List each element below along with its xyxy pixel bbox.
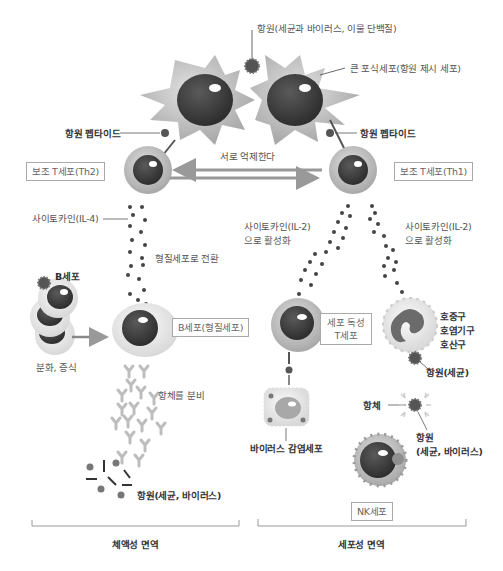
- granulocyte-neutrophil-label: 호중구: [440, 310, 466, 323]
- cytokine-il2-right-label-2: 으로 활성화: [405, 234, 451, 247]
- antigen-bottom-left-label: 항원(세균, 바이러스): [137, 489, 221, 502]
- granulocyte-basophil-label: 호염기구: [440, 324, 475, 337]
- cytotoxic-t-cell-icon: [271, 298, 325, 385]
- cytokine-il4-label: 사이토카인(IL-4): [32, 212, 99, 225]
- antibody-antigen-right-icon: [388, 393, 431, 430]
- plasma-cell-icon: [112, 303, 178, 357]
- cytokine-dots-left-icon: [126, 205, 148, 306]
- peptide-left-label: 항원 펩타이드: [65, 127, 120, 140]
- diagram-artwork: [0, 0, 503, 571]
- humoral-immunity-label: 체액성 면역: [112, 538, 159, 551]
- humoral-bracket: [32, 520, 239, 526]
- differentiation-label: 분화, 증식: [36, 361, 76, 374]
- immune-system-diagram: 항원(세균과 바이러스, 이물 단백질) 큰 포식세포(항원 제시 세포) 항원…: [0, 0, 503, 571]
- cytokine-dots-middle-icon: [297, 204, 352, 296]
- b-cell-label: B세포: [55, 270, 79, 283]
- antibody-label: 항체: [363, 399, 380, 412]
- th1-cell-icon: [329, 146, 377, 194]
- b-cell-stack-icon: [30, 277, 78, 355]
- macrophage-label: 큰 포식세포(항원 제시 세포): [350, 62, 461, 75]
- cytokine-il2-right-label-1: 사이토카인(IL-2): [405, 220, 472, 233]
- plasma-conversion-label: 형질세포로 전환: [155, 252, 219, 265]
- cytokine-dots-right-icon: [368, 204, 404, 294]
- b-cell-plasma-box: B세포(형질세포): [172, 318, 249, 337]
- granulocyte-eosinophil-label: 호산구: [440, 338, 466, 351]
- antigen-top-label: 항원(세균과 바이러스, 이물 단백질): [257, 22, 397, 35]
- antibody-secretion-label: 항체를 분비: [158, 389, 204, 402]
- cytotoxic-t-line-1: 세포 독성: [326, 316, 366, 329]
- virus-infected-cell-label: 바이러스 감염세포: [250, 442, 323, 455]
- granulocyte-icon: [383, 298, 437, 374]
- cytokine-il2-mid-label-2: 으로 활성화: [244, 234, 290, 247]
- cytokine-il2-mid-label-1: 사이토카인(IL-2): [244, 220, 311, 233]
- antigen-bacteria-label: 항원(세균): [426, 366, 469, 379]
- antigen-right-label-2: (세균, 바이러스): [416, 445, 483, 458]
- antibody-cluster-icon: [112, 366, 165, 466]
- antigen-right-label-1: 항원: [416, 431, 433, 444]
- peptide-right-label: 항원 펩타이드: [360, 127, 415, 140]
- cytotoxic-t-line-2: T세포: [326, 329, 366, 342]
- cytotoxic-t-cell-box: 세포 독성 T세포: [320, 313, 372, 345]
- nk-cell-icon: [354, 434, 406, 486]
- th1-box: 보조 T세포(Th1): [394, 162, 473, 181]
- mutual-suppression-label: 서로 억제한다: [220, 150, 275, 163]
- macrophage-left-icon: [140, 55, 255, 145]
- cellular-immunity-label: 세포성 면역: [338, 538, 385, 551]
- nk-cell-box: NK세포: [351, 502, 393, 521]
- th2-cell-icon: [124, 146, 172, 194]
- th2-box: 보조 T세포(Th2): [26, 162, 105, 181]
- virus-infected-cell-icon: [264, 388, 309, 441]
- antigen-top-icon: [245, 30, 259, 73]
- mutual-suppression-arrows: [170, 170, 322, 178]
- antigen-cluster-bottom-left-icon: [86, 460, 132, 499]
